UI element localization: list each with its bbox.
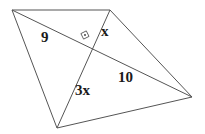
right-angle-square-icon (81, 31, 89, 39)
segment-label-10: 10 (118, 70, 133, 85)
segment-label-x: x (101, 24, 109, 39)
left-edge (12, 10, 57, 128)
geometry-figure: 9 x 10 3x (0, 0, 205, 134)
bottom-edge (57, 97, 192, 128)
segment-label-9: 9 (41, 30, 49, 45)
segment-label-3x: 3x (75, 83, 90, 98)
right-angle-dot-icon (84, 34, 86, 36)
geometry-canvas (0, 0, 205, 134)
